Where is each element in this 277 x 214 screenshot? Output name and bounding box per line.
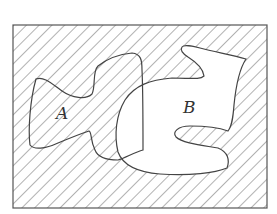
venn-diagram: A B bbox=[0, 0, 277, 214]
set-a-label: A bbox=[54, 103, 68, 123]
set-b-label: B bbox=[182, 97, 196, 117]
